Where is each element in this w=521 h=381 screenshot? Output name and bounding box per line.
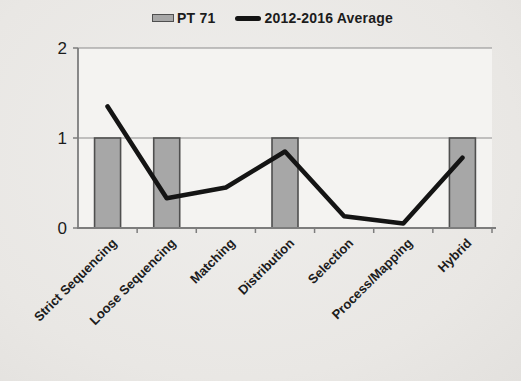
line-swatch-icon — [235, 16, 261, 21]
chart-container: PT 71 2012-2016 Average 012Strict Sequen… — [0, 0, 521, 381]
bar-swatch-icon — [152, 14, 174, 22]
bar-6 — [449, 138, 475, 228]
y-tick-label-0: 0 — [58, 219, 67, 238]
chart-svg: 012Strict SequencingLoose SequencingMatc… — [0, 0, 521, 381]
legend-label-average: 2012-2016 Average — [264, 10, 392, 26]
legend-item-pt71: PT 71 — [152, 10, 215, 26]
y-tick-label-2: 2 — [58, 39, 67, 58]
x-category-label-2: Matching — [187, 235, 238, 286]
x-category-label-6: Hybrid — [435, 235, 475, 275]
legend-item-average: 2012-2016 Average — [235, 10, 392, 26]
x-category-label-4: Selection — [305, 235, 357, 287]
y-tick-label-1: 1 — [58, 129, 67, 148]
legend-label-pt71: PT 71 — [177, 10, 215, 26]
legend: PT 71 2012-2016 Average — [12, 10, 521, 26]
x-category-label-3: Distribution — [235, 235, 297, 297]
bar-0 — [95, 138, 121, 228]
